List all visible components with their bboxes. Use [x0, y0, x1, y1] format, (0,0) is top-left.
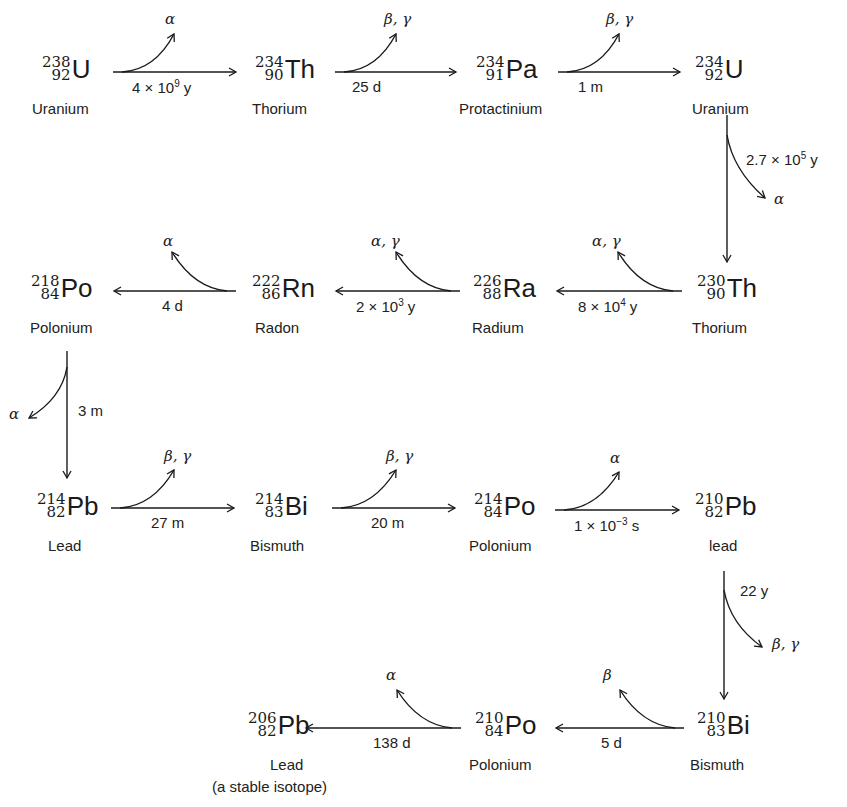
isotope-numbers: 23490: [255, 56, 284, 82]
emission-arrow-alpha-gamma: [396, 252, 451, 291]
element-symbol: Rn: [282, 275, 315, 301]
isotope-numbers: 21483: [255, 493, 284, 519]
emission-label: α: [386, 666, 396, 684]
element-symbol: Bi: [727, 712, 750, 738]
element-name: Polonium: [30, 319, 93, 336]
isotope-numbers: 21482: [37, 493, 66, 519]
atomic-number: 83: [265, 506, 284, 519]
emission-label: β, γ: [606, 10, 633, 28]
half-life-value: 8 × 10: [578, 298, 620, 315]
nuclide-bi210: 21083Bi: [697, 712, 750, 738]
emission-label: β, γ: [386, 447, 413, 465]
emission-arrow-alpha: [29, 367, 67, 418]
half-life-unit: y: [404, 298, 416, 315]
half-life-value: 2.7 × 10: [746, 151, 801, 168]
element-name: Radium: [472, 319, 524, 336]
atomic-number: 83: [707, 725, 726, 738]
atomic-number: 82: [258, 725, 277, 738]
isotope-numbers: 21484: [474, 493, 503, 519]
isotope-numbers: 21083: [697, 712, 726, 738]
half-life-unit: y: [626, 298, 638, 315]
atomic-number: 84: [485, 725, 504, 738]
atomic-number: 88: [483, 288, 502, 301]
nuclide-u234: 23492U: [695, 56, 743, 82]
nuclide-rn222: 22286Rn: [252, 275, 315, 301]
half-life-unit: y: [180, 79, 192, 96]
element-name: Uranium: [692, 100, 749, 117]
element-symbol: Th: [727, 275, 757, 301]
emission-arrow-beta-gamma: [341, 470, 396, 508]
emission-label: α: [163, 232, 173, 250]
isotope-numbers: 22688: [473, 275, 502, 301]
emission-arrow-alpha: [172, 252, 227, 291]
element-name: Thorium: [252, 100, 307, 117]
emission-arrow-beta-gamma: [120, 470, 174, 508]
half-life-unit: s: [628, 517, 640, 534]
half-life-label: 4 d: [162, 297, 183, 314]
half-life-value: 138 d: [373, 734, 411, 751]
isotope-numbers: 20682: [248, 712, 277, 738]
nuclide-po214: 21484Po: [474, 493, 535, 519]
element-symbol: U: [725, 56, 744, 82]
emission-label: α: [9, 405, 19, 423]
nuclide-pb214: 21482Pb: [37, 493, 98, 519]
element-symbol: Pb: [67, 493, 99, 519]
half-life-label: 3 m: [78, 402, 103, 419]
emission-arrow-alpha: [122, 34, 174, 72]
element-symbol: Po: [504, 493, 536, 519]
element-symbol: Th: [285, 56, 315, 82]
atomic-number: 92: [705, 69, 724, 82]
half-life-value: 1 × 10: [574, 517, 616, 534]
emission-label: α: [774, 190, 784, 208]
half-life-label: 4 × 109 y: [132, 78, 191, 96]
half-life-label: 2.7 × 105 y: [746, 150, 818, 168]
element-name: Lead: [270, 756, 303, 773]
decay-arrows-layer: [0, 0, 847, 807]
nuclide-pa234: 23491Pa: [476, 56, 537, 82]
isotope-numbers: 23892: [42, 56, 71, 82]
half-life-value: 5 d: [601, 734, 622, 751]
emission-label: β, γ: [772, 635, 799, 653]
nuclide-po218: 21884Po: [31, 275, 92, 301]
half-life-value: 25 d: [352, 78, 381, 95]
half-life-exponent: −3: [616, 516, 627, 527]
half-life-value: 1 m: [578, 78, 603, 95]
element-name: Radon: [255, 319, 299, 336]
half-life-value: 20 m: [371, 514, 404, 531]
half-life-label: 2 × 103 y: [356, 297, 415, 315]
half-life-label: 1 m: [578, 78, 603, 95]
isotope-numbers: 23491: [476, 56, 505, 82]
half-life-value: 4 × 10: [132, 79, 174, 96]
emission-arrow-beta-gamma: [567, 34, 619, 72]
element-name: Protactinium: [459, 100, 542, 117]
nuclide-po210: 21084Po: [475, 712, 536, 738]
element-symbol: U: [72, 56, 91, 82]
isotope-numbers: 22286: [252, 275, 281, 301]
emission-label: α: [165, 10, 175, 28]
element-symbol: Pa: [506, 56, 538, 82]
emission-arrow-alpha: [397, 690, 452, 728]
element-symbol: Po: [61, 275, 93, 301]
emission-label: β, γ: [384, 10, 411, 28]
element-name: Polonium: [469, 756, 532, 773]
atomic-number: 84: [484, 506, 503, 519]
nuclide-bi214: 21483Bi: [255, 493, 308, 519]
atomic-number: 90: [707, 288, 726, 301]
atomic-number: 82: [47, 506, 66, 519]
atomic-number: 84: [41, 288, 60, 301]
nuclide-th234: 23490Th: [255, 56, 315, 82]
element-name: Polonium: [469, 537, 532, 554]
element-symbol: Bi: [285, 493, 308, 519]
element-name: Thorium: [692, 319, 747, 336]
half-life-label: 22 y: [740, 582, 768, 599]
emission-arrow-alpha-gamma: [618, 252, 673, 291]
nuclide-u238: 23892U: [42, 56, 90, 82]
half-life-label: 138 d: [373, 734, 411, 751]
half-life-unit: y: [806, 151, 818, 168]
atomic-number: 82: [705, 506, 724, 519]
emission-arrow-beta-gamma: [344, 34, 396, 72]
half-life-value: 4 d: [162, 297, 183, 314]
half-life-label: 5 d: [601, 734, 622, 751]
element-note: (a stable isotope): [212, 778, 327, 795]
half-life-label: 1 × 10−3 s: [574, 516, 639, 534]
